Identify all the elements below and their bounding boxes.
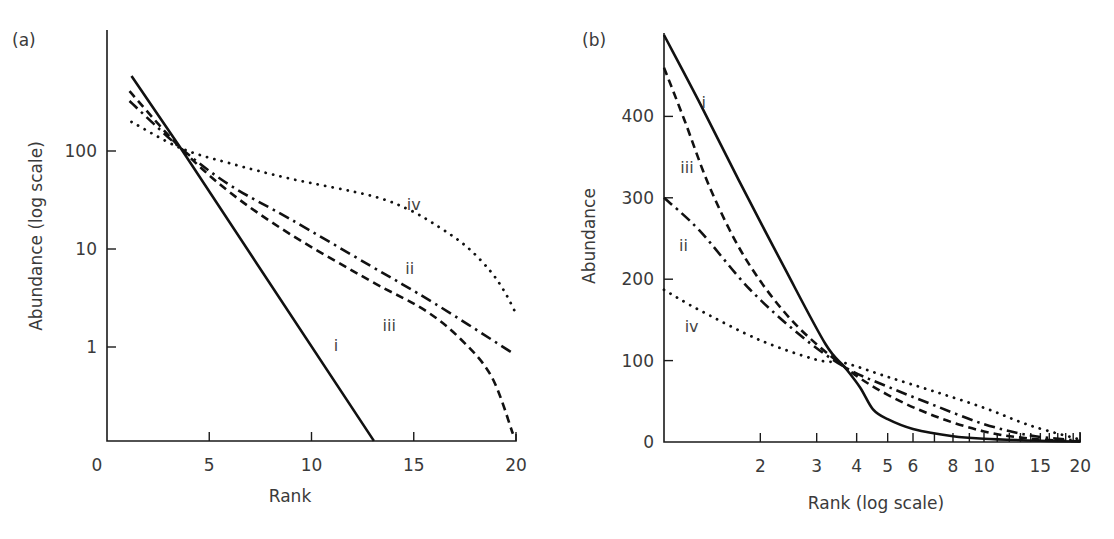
series-iv-line [132,122,516,312]
figure: (a) 05101520 110100 Rank Abundance (log … [0,0,1114,539]
x-tick-label: 15 [1030,456,1052,476]
series-i-line [132,76,374,441]
y-tick-label: 1 [86,337,97,357]
x-tick-label: 15 [403,455,425,475]
panel-a-y-axis-label: Abundance (log scale) [26,141,46,331]
series-iii-label: iii [383,316,396,335]
panel-a-axes [107,30,516,441]
panel-b-y-ticks: 0100200300400 [622,106,673,452]
x-tick-label: 10 [973,456,995,476]
panel-a-x-ticks: 05101520 [92,432,527,475]
y-tick-label: 0 [643,432,654,452]
series-iii-line [664,68,1080,442]
x-tick-label: 6 [908,456,919,476]
panel-a-x-axis-label: Rank [269,486,312,506]
series-iv-line [664,290,1080,440]
y-tick-label: 10 [75,239,97,259]
x-tick-label: 5 [204,455,215,475]
x-tick-label: 2 [755,456,766,476]
series-iv-label: iv [685,317,699,336]
x-tick-label: 20 [1070,456,1092,476]
x-tick-label: 8 [948,456,959,476]
series-i-line [664,35,1080,442]
panel-b-x-ticks: 234568101520 [755,433,1091,476]
series-iv-label: iv [407,195,421,214]
y-tick-label: 200 [622,269,654,289]
series-ii-label: ii [405,259,414,278]
y-tick-label: 400 [622,106,654,126]
x-tick-label: 0 [92,455,103,475]
y-tick-label: 100 [622,351,654,371]
panel-a-chart: (a) 05101520 110100 Rank Abundance (log … [12,30,527,506]
x-tick-label: 10 [301,455,323,475]
series-i-label: i [334,336,338,355]
x-tick-label: 5 [882,456,893,476]
panel-b-chart: (b) 234568101520 0100200300400 Rank (log… [579,30,1091,513]
series-iii-line [130,91,513,434]
series-iii-label: iii [680,158,693,177]
panel-a-y-ticks: 110100 [65,141,116,357]
y-tick-label: 100 [65,141,97,161]
panel-b-axes [664,33,1080,442]
x-tick-label: 3 [811,456,822,476]
y-tick-label: 300 [622,188,654,208]
x-tick-label: 20 [505,455,527,475]
panel-a-series: iiiiiiiv [130,76,516,441]
series-i-label: i [701,93,705,112]
panel-b-label: (b) [582,30,606,50]
x-tick-label: 4 [851,456,862,476]
series-ii-line [130,101,515,354]
series-ii-line [664,198,1080,441]
panel-a-label: (a) [12,30,36,50]
panel-b-series: iiiiiiiv [664,35,1080,442]
panel-b-x-axis-label: Rank (log scale) [808,493,944,513]
panel-b-y-axis-label: Abundance [579,188,599,284]
series-ii-label: ii [679,236,688,255]
